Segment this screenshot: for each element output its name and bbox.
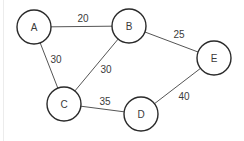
node-d: D [124, 97, 158, 131]
edge-weight-label: 30 [50, 54, 62, 65]
node-c: C [47, 87, 81, 121]
node-e: E [197, 41, 231, 75]
graph-diagram: 203030253540 ABCDE [0, 0, 244, 141]
edge-weight-label: 20 [77, 13, 89, 24]
node-a: A [17, 10, 51, 44]
node-label: C [60, 99, 67, 110]
edge-weight-label: 40 [178, 91, 190, 102]
edge-weight-label: 25 [173, 29, 185, 40]
edge-weight-label: 30 [100, 64, 112, 75]
edge-weight-label: 35 [99, 96, 111, 107]
node-label: E [211, 53, 218, 64]
node-label: D [137, 109, 144, 120]
node-b: B [112, 9, 146, 43]
node-label: A [31, 22, 38, 33]
node-label: B [126, 21, 133, 32]
